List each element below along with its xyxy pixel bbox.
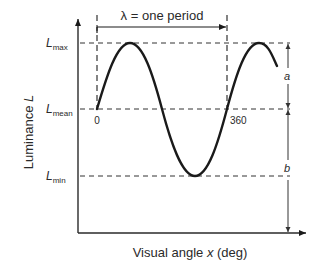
x-axis-title: Visual angle x (deg) xyxy=(133,245,248,260)
lmean-label: Lmean xyxy=(46,102,73,118)
sine-wave-curve xyxy=(97,43,277,176)
luminance-sinewave-diagram: λ = one period a b 0 360 Lmax Lmean Lmin… xyxy=(0,0,319,274)
x-tick-0: 0 xyxy=(94,115,100,126)
lmax-label: Lmax xyxy=(46,36,68,52)
x-tick-360: 360 xyxy=(230,115,247,126)
amplitude-a-label: a xyxy=(284,70,290,82)
mean-b-label: b xyxy=(284,162,290,174)
y-axis-title: Luminance L xyxy=(21,95,36,169)
lmin-label: Lmin xyxy=(46,169,66,185)
period-label: λ = one period xyxy=(121,8,204,23)
